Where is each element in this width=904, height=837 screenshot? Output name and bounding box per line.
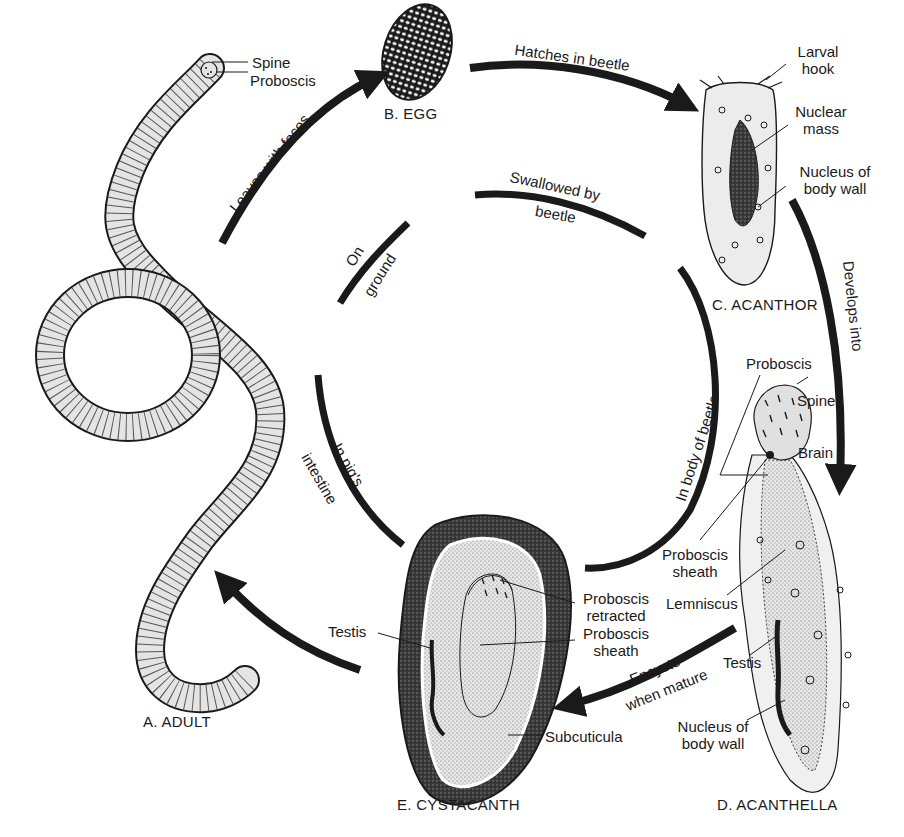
adult-spine-label: Spine (252, 54, 290, 71)
stage-adult-label: A. ADULT (143, 713, 211, 730)
acanthella-brain-label: Brain (798, 444, 833, 461)
arc-body-of-beetle (585, 268, 715, 568)
acanthella-sheath-line2: sheath (654, 563, 736, 580)
stage-acanthor-label: C. ACANTHOR (712, 296, 818, 313)
cystacanth-proboscis-retracted-label: Proboscis retracted (575, 590, 657, 624)
inner-arcs (318, 194, 715, 568)
cyst-sheath-line2: sheath (575, 642, 657, 659)
stage-acanthella-label: D. ACANTHELLA (717, 796, 838, 813)
cyst-sheath-line1: Proboscis (575, 625, 657, 642)
adult-worm-drawing (50, 62, 270, 698)
arrow-hatches-in-beetle (470, 65, 685, 104)
nuclear-mass-line2: mass (790, 120, 852, 137)
acanthella-nucleus-label: Nucleus of body wall (668, 718, 758, 752)
cystacanth-subcuticula-label: Subcuticula (545, 728, 623, 745)
acanthor-nucleus-line2: body wall (790, 180, 880, 197)
arrow-leaves-with-feces (222, 78, 375, 243)
nuclear-mass-line1: Nuclear (790, 103, 852, 120)
life-cycle-artwork (0, 0, 904, 837)
retracted-line2: retracted (575, 607, 657, 624)
stage-cystacanth-label: E. CYSTACANTH (397, 796, 520, 813)
acanthella-nucleus-line1: Nucleus of (668, 718, 758, 735)
cystacanth-testis-label: Testis (328, 623, 366, 640)
acanthella-nucleus-line2: body wall (668, 735, 758, 752)
egg-drawing (370, 0, 463, 109)
acanthor-nuclear-mass-label: Nuclear mass (790, 103, 852, 137)
acanthella-lemniscus-label: Lemniscus (666, 595, 738, 612)
acanthella-testis-label: Testis (723, 654, 761, 671)
larval-hook-line2: hook (790, 60, 846, 77)
acanthella-proboscis-sheath-label: Proboscis sheath (654, 546, 736, 580)
stage-egg-label: B. EGG (384, 105, 437, 122)
retracted-line1: Proboscis (575, 590, 657, 607)
cystacanth-drawing (378, 515, 575, 805)
acanthor-nucleus-line1: Nucleus of (790, 163, 880, 180)
adult-proboscis-label: Proboscis (250, 72, 316, 89)
acanthor-larval-hook-label: Larval hook (790, 43, 846, 77)
cystacanth-proboscis-sheath-label: Proboscis sheath (575, 625, 657, 659)
acanthor-drawing (700, 64, 788, 285)
arc-pig-intestine (318, 375, 403, 545)
larval-hook-line1: Larval (790, 43, 846, 60)
acanthella-proboscis-label: Proboscis (746, 355, 812, 372)
acanthella-spine-label: Spine (797, 392, 835, 409)
acanthella-sheath-line1: Proboscis (654, 546, 736, 563)
acanthor-nucleus-label: Nucleus of body wall (790, 163, 880, 197)
